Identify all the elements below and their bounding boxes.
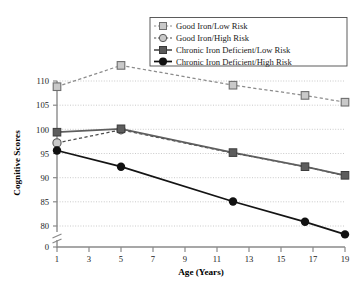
x-axis-title: Age (Years) [178, 267, 224, 277]
series-chronic-iron-deficient-low-risk [53, 125, 349, 179]
chart-legend: Good Iron/Low Risk Good Iron/High Risk C… [150, 18, 347, 67]
y-tick-label-95: 95 [40, 149, 49, 159]
x-tick-label-19: 19 [341, 254, 350, 264]
series-good-iron-low-risk [53, 62, 349, 106]
data-point-marker [301, 92, 309, 100]
x-tick-label-1: 1 [55, 254, 59, 264]
data-point-marker [53, 128, 61, 136]
cognitive-scores-line-chart: Good Iron/Low Risk Good Iron/High Risk C… [0, 0, 357, 281]
data-point-marker [229, 149, 237, 157]
x-tick-label-7: 7 [151, 254, 156, 264]
open-circle-icon [159, 34, 166, 41]
y-tick-label-105: 105 [36, 100, 49, 110]
legend-label-chronic-low-risk: Chronic Iron Deficient/Low Risk [176, 45, 291, 55]
legend-label-good-iron-low-risk: Good Iron/Low Risk [176, 21, 248, 31]
y-tick-label-85: 85 [40, 197, 49, 207]
data-point-marker [229, 197, 237, 205]
y-tick-labels: 110 105 100 95 90 85 80 0 [36, 76, 49, 252]
legend-label-good-iron-high-risk: Good Iron/High Risk [176, 33, 250, 43]
axis-break-mark-upper [53, 234, 62, 238]
data-point-marker [117, 163, 125, 171]
data-point-marker [229, 81, 237, 89]
data-point-marker [53, 83, 61, 91]
y-tick-label-100: 100 [36, 125, 49, 135]
data-point-marker [341, 98, 349, 106]
y-axis-title: Cognitive Scores [12, 130, 22, 196]
chart-figure: Good Iron/Low Risk Good Iron/High Risk C… [0, 0, 357, 281]
x-tick-labels: 1 3 5 7 9 11 13 15 17 19 [55, 254, 349, 264]
series-chronic-iron-deficient-high-risk [53, 146, 349, 238]
y-tick-label-110: 110 [36, 76, 49, 86]
data-point-marker [341, 172, 349, 180]
filled-circle-icon [159, 58, 167, 66]
y-tick-label-0: 0 [45, 242, 49, 252]
x-tick-label-13: 13 [245, 254, 254, 264]
chart-gridlines [57, 81, 345, 226]
data-point-marker [117, 62, 125, 70]
x-tick-label-15: 15 [277, 254, 286, 264]
legend-label-chronic-high-risk: Chronic Iron Deficient/High Risk [176, 57, 292, 67]
y-tick-label-90: 90 [40, 173, 49, 183]
open-square-icon [160, 23, 167, 30]
data-point-marker [301, 163, 309, 171]
data-point-marker [117, 125, 125, 133]
x-tick-label-5: 5 [119, 254, 123, 264]
filled-square-icon [160, 47, 167, 54]
data-point-marker [341, 230, 349, 238]
data-point-marker [301, 218, 309, 226]
x-tick-label-11: 11 [213, 254, 221, 264]
x-tick-label-9: 9 [183, 254, 187, 264]
data-point-marker [53, 139, 61, 147]
data-point-marker [53, 146, 61, 154]
y-tick-label-80: 80 [40, 221, 49, 231]
x-tick-label-17: 17 [309, 254, 318, 264]
x-tick-label-3: 3 [87, 254, 91, 264]
